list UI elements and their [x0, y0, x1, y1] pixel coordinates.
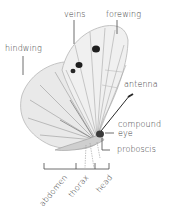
label-veins: veins: [64, 10, 86, 19]
compound-eye-shape: [96, 131, 104, 138]
label-compound-eye-line1: compound: [118, 120, 161, 129]
label-forewing: forewing: [106, 10, 141, 19]
forewing-spot-lower: [76, 62, 83, 68]
label-compound-eye-line2: eye: [118, 129, 133, 138]
label-hindwing: hindwing: [5, 44, 42, 53]
forewing-spot-upper: [92, 46, 100, 53]
label-proboscis: proboscis: [117, 145, 156, 154]
label-antenna: antenna: [124, 80, 158, 89]
